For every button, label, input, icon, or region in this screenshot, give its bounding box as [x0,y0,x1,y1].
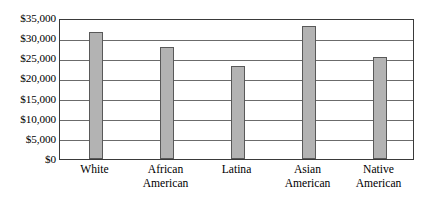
bars-layer [60,20,413,159]
bar [160,47,174,159]
y-axis-tick-label: $35,000 [0,13,56,24]
plot-area [59,19,414,160]
x-axis-tick-label-line: African [143,163,189,177]
y-axis-tick-label: $30,000 [0,33,56,44]
x-axis-tick-label: White [80,163,108,177]
x-axis-tick-label-line: Asian [285,163,331,177]
bar [231,66,245,159]
y-axis-tick-label: $0 [0,154,56,165]
bar-chart: $35,000$30,000$25,000$20,000$15,000$10,0… [0,0,427,202]
y-axis-tick-label: $15,000 [0,94,56,105]
y-axis-tick-label: $25,000 [0,53,56,64]
x-axis-tick-label-line: American [285,177,331,191]
x-axis-tick-label-line: Native [356,163,402,177]
x-axis-tick-label: Latina [222,163,252,177]
x-axis-tick-label-line: American [143,177,189,191]
x-axis-tick-label: NativeAmerican [356,163,402,190]
x-axis-tick-label: AfricanAmerican [143,163,189,190]
bar [302,26,316,159]
x-axis-tick-label-line: American [356,177,402,191]
x-axis-tick-label-line: White [80,163,108,177]
y-axis-tick-label: $10,000 [0,114,56,125]
y-axis-tick-label: $5,000 [0,134,56,145]
y-axis-tick-label: $20,000 [0,73,56,84]
bar [89,32,103,159]
y-axis: $35,000$30,000$25,000$20,000$15,000$10,0… [0,0,56,202]
bar [373,57,387,159]
x-axis-tick-label-line: Latina [222,163,252,177]
x-axis-tick-label: AsianAmerican [285,163,331,190]
x-axis: WhiteAfricanAmericanLatinaAsianAmericanN… [59,163,414,201]
